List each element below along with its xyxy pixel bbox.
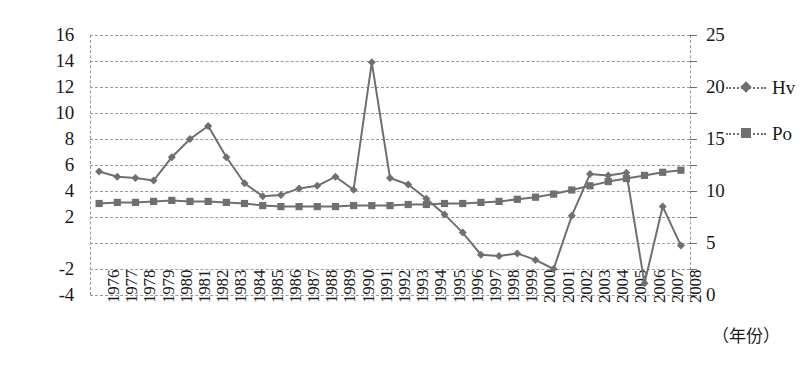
x-axis-tick-label: 1977: [123, 270, 140, 303]
y-axis-right-tick: [690, 165, 697, 166]
y-axis-left-tick-label: 6: [28, 155, 74, 174]
x-axis-title: （年份）: [712, 322, 780, 347]
y-axis-left-tick-label: 4: [28, 181, 74, 200]
x-axis-tick-label: 1979: [160, 270, 177, 303]
gridline: [90, 243, 690, 244]
y-axis-left-tick-label: 2: [28, 207, 74, 226]
x-axis-tick-label: 2006: [651, 270, 668, 303]
legend-item-hv[interactable]: Hv: [726, 78, 811, 124]
legend-label: Hv: [772, 78, 795, 97]
x-axis-tick-label: 2008: [687, 270, 704, 303]
line-chart: 161412108642-2-4 2520151050 197619771978…: [0, 0, 811, 378]
gridline: [90, 217, 690, 218]
x-axis-tick-label: 2004: [614, 270, 631, 303]
y-axis-right-tick: [690, 113, 697, 114]
legend-label: Po: [772, 124, 792, 143]
x-axis-tick-label: 1985: [269, 270, 286, 303]
gridline: [90, 61, 690, 62]
y-axis-left-tick-label: -4: [28, 285, 74, 304]
x-axis-tick-label: 2001: [560, 270, 577, 303]
x-axis-tick-label: 2003: [596, 270, 613, 303]
x-axis-tick-label: 1980: [178, 270, 195, 303]
gridline: [90, 113, 690, 114]
x-axis-tick-label: 1992: [396, 270, 413, 303]
gridline: [90, 165, 690, 166]
y-axis-left-tick-label: -2: [28, 259, 74, 278]
x-axis-tick-label: 2005: [632, 270, 649, 303]
x-axis-tick-label: 1993: [414, 270, 431, 303]
y-axis-right-tick: [690, 139, 697, 140]
gridline: [90, 191, 690, 192]
y-axis-right-tick-label: 5: [706, 233, 752, 252]
y-axis-right-tick: [690, 61, 697, 62]
y-axis-right-tick: [690, 243, 697, 244]
gridline: [90, 139, 690, 140]
y-axis-right-tick: [690, 87, 697, 88]
x-axis-tick-label: 1986: [287, 270, 304, 303]
x-axis-tick-label: 1978: [141, 270, 158, 303]
x-axis-tick-label: 2007: [669, 270, 686, 303]
legend-marker-square: [741, 128, 751, 138]
x-axis-tick-label: 1983: [232, 270, 249, 303]
x-axis-tick-label: 1984: [251, 270, 268, 303]
x-axis-tick-label: 1994: [432, 270, 449, 303]
y-axis-left-tick-label: 16: [28, 25, 74, 44]
x-axis-tick-label: 1990: [360, 270, 377, 303]
x-axis-tick-label: 2002: [578, 270, 595, 303]
y-axis-left-tick-label: 12: [28, 77, 74, 96]
plot-area: [90, 35, 690, 295]
x-axis-tick-label: 1988: [323, 270, 340, 303]
legend-marker-diamond: [740, 81, 751, 92]
x-axis-tick-label: 1995: [451, 270, 468, 303]
gridline: [90, 87, 690, 88]
x-axis-tick-label: 1981: [196, 270, 213, 303]
y-axis-right-tick: [690, 217, 697, 218]
x-axis-tick-label: 1982: [214, 270, 231, 303]
y-axis-right-tick-label: 25: [706, 25, 752, 44]
y-axis-right-tick-label: 0: [706, 285, 752, 304]
x-axis-tick-label: 1998: [505, 270, 522, 303]
y-axis-right-tick: [690, 191, 697, 192]
gridline: [90, 35, 690, 36]
legend: HvPo: [726, 78, 811, 170]
x-axis-tick-label: 1996: [469, 270, 486, 303]
legend-item-po[interactable]: Po: [726, 124, 811, 170]
x-axis-tick-label: 1976: [105, 270, 122, 303]
x-axis-tick-label: 2000: [541, 270, 558, 303]
x-axis-tick-label: 1997: [487, 270, 504, 303]
x-axis-tick-label: 1989: [341, 270, 358, 303]
y-axis-right-tick: [690, 35, 697, 36]
y-axis-left-tick-label: 8: [28, 129, 74, 148]
y-axis-left-tick-label: 14: [28, 51, 74, 70]
x-axis-tick-label: 1999: [523, 270, 540, 303]
x-axis-tick-label: 1987: [305, 270, 322, 303]
x-axis-tick-label: 1991: [378, 270, 395, 303]
y-axis-right-tick-label: 10: [706, 181, 752, 200]
y-axis-left-tick-label: 10: [28, 103, 74, 122]
